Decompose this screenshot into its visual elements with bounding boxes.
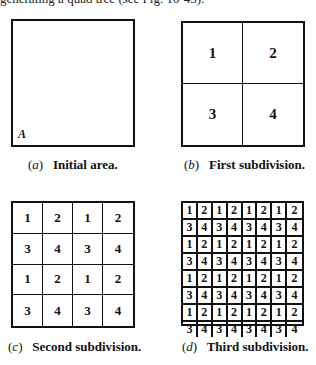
- quadrant-cell: 2: [257, 203, 272, 220]
- quadrant-cell: 3: [73, 234, 103, 265]
- caption-c: (c) Second subdivision.: [8, 339, 141, 355]
- quadrant-cell: 2: [103, 203, 133, 234]
- panel-initial-area: A: [11, 19, 135, 147]
- quadrant-cell: 4: [198, 220, 213, 237]
- quadrant-cell: 1: [73, 203, 103, 234]
- quadrant-cell: 3: [73, 295, 103, 326]
- caption-d: (d) Third subdivision.: [182, 339, 309, 355]
- quadrant-cell: 4: [228, 254, 243, 271]
- quadrant-cell: 1: [243, 203, 258, 220]
- quadrant-cell: 2: [257, 305, 272, 322]
- quadrant-cell: 3: [183, 84, 243, 145]
- quadrant-cell: 2: [228, 305, 243, 322]
- quadrant-cell: 1: [183, 271, 198, 288]
- caption-b: (b) First subdivision.: [184, 157, 305, 173]
- grid-third-subdivision: 1212121234343434121212123434343412121212…: [183, 203, 302, 324]
- quadrant-cell: 4: [198, 254, 213, 271]
- quadrant-cell: 4: [228, 288, 243, 305]
- quadrant-cell: 3: [243, 288, 258, 305]
- quadrant-cell: 3: [213, 288, 228, 305]
- quadrant-cell: 2: [43, 265, 73, 296]
- quadrant-cell: 4: [257, 288, 272, 305]
- quadrant-cell: 1: [213, 305, 228, 322]
- quadrant-cell: 4: [228, 322, 243, 337]
- header-text: generating a quad tree (see Fig. 10-43).: [0, 0, 204, 7]
- quadrant-cell: 1: [243, 305, 258, 322]
- quadrant-cell: 1: [272, 305, 287, 322]
- quadrant-cell: 2: [287, 271, 302, 288]
- quadrant-cell: 4: [287, 322, 302, 337]
- quadrant-cell: 3: [183, 254, 198, 271]
- quadrant-cell: 1: [272, 237, 287, 254]
- caption-d-text: Third subdivision.: [207, 339, 309, 354]
- quadrant-cell: 2: [228, 271, 243, 288]
- quadrant-cell: 4: [198, 322, 213, 337]
- quadrant-cell: 1: [183, 23, 243, 84]
- quadrant-cell: 1: [243, 237, 258, 254]
- panel-first-subdivision: 1234: [181, 21, 305, 147]
- quadrant-cell: 4: [287, 288, 302, 305]
- quadrant-cell: 2: [103, 265, 133, 296]
- quadrant-cell: 3: [272, 288, 287, 305]
- quadrant-cell: 1: [213, 271, 228, 288]
- quadrant-cell: 1: [213, 203, 228, 220]
- quadrant-cell: 2: [243, 23, 303, 84]
- caption-a-text: Initial area.: [53, 157, 118, 172]
- quadrant-cell: 2: [287, 305, 302, 322]
- quadrant-cell: 4: [287, 220, 302, 237]
- quadrant-cell: 3: [272, 220, 287, 237]
- quadrant-cell: 2: [257, 271, 272, 288]
- quadrant-cell: 4: [43, 295, 73, 326]
- quadrant-cell: 3: [13, 234, 43, 265]
- quadrant-cell: 2: [228, 203, 243, 220]
- quadrant-cell: 3: [183, 322, 198, 337]
- grid-second-subdivision: 1212343412123434: [13, 203, 133, 326]
- quadrant-cell: 3: [213, 220, 228, 237]
- quadrant-cell: 1: [183, 237, 198, 254]
- quadrant-cell: 3: [243, 322, 258, 337]
- quadrant-cell: 1: [243, 271, 258, 288]
- quadrant-cell: 1: [183, 203, 198, 220]
- quadrant-cell: 3: [243, 254, 258, 271]
- quadrant-cell: 2: [228, 237, 243, 254]
- quadrant-cell: 4: [257, 322, 272, 337]
- quadrant-cell: 1: [272, 271, 287, 288]
- quadrant-cell: 1: [213, 237, 228, 254]
- panel-third-subdivision: 1212121234343434121212123434343412121212…: [181, 201, 304, 326]
- quadrant-cell: 1: [73, 265, 103, 296]
- quadrant-cell: 1: [13, 203, 43, 234]
- quadrant-cell: 2: [287, 237, 302, 254]
- quadrant-cell: 4: [257, 220, 272, 237]
- quadrant-cell: 2: [198, 271, 213, 288]
- quadrant-cell: 1: [13, 265, 43, 296]
- quadrant-cell: 3: [243, 220, 258, 237]
- caption-c-text: Second subdivision.: [32, 339, 141, 354]
- quadrant-cell: 3: [272, 322, 287, 337]
- quadrant-cell: 1: [183, 305, 198, 322]
- quadrant-cell: 3: [213, 254, 228, 271]
- panel-second-subdivision: 1212343412123434: [11, 201, 135, 328]
- grid-first-subdivision: 1234: [183, 23, 303, 145]
- quadrant-cell: 4: [287, 254, 302, 271]
- quadrant-cell: 3: [183, 220, 198, 237]
- quadrant-cell: 4: [243, 84, 303, 145]
- quadrant-cell: 3: [183, 288, 198, 305]
- quadrant-cell: 1: [272, 203, 287, 220]
- quadrant-cell: 2: [198, 203, 213, 220]
- quadrant-cell: 4: [228, 220, 243, 237]
- quadrant-cell: 2: [198, 305, 213, 322]
- quadrant-cell: 4: [103, 295, 133, 326]
- quadrant-cell: 4: [198, 288, 213, 305]
- quadrant-cell: 2: [287, 203, 302, 220]
- quadrant-cell: 3: [13, 295, 43, 326]
- quadrant-cell: 2: [198, 237, 213, 254]
- quadrant-cell: 2: [257, 237, 272, 254]
- quadrant-cell: 3: [213, 322, 228, 337]
- quadrant-cell: 4: [43, 234, 73, 265]
- quadrant-cell: 2: [43, 203, 73, 234]
- quadrant-cell: 4: [103, 234, 133, 265]
- caption-a: (a) Initial area.: [28, 157, 118, 173]
- quadrant-cell: 4: [257, 254, 272, 271]
- area-label: A: [18, 127, 26, 142]
- quadrant-cell: 3: [272, 254, 287, 271]
